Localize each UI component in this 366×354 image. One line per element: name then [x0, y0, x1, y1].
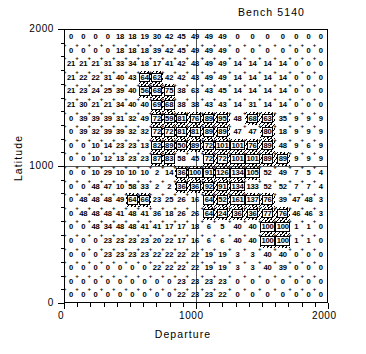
grid-cell-value: 89 [203, 127, 214, 137]
grid-cell: 7 [302, 180, 314, 194]
x-tick [130, 303, 131, 307]
grid-cell: 45 [188, 152, 203, 166]
grid-cell-value: 23 [191, 291, 199, 299]
grid-cell-value: 48 [79, 210, 87, 218]
grid-cell: 48 [90, 220, 102, 234]
grid-cell: 14 [275, 98, 290, 112]
grid-cell-value: 0 [81, 47, 85, 55]
grid-cell-value: 40 [233, 237, 241, 245]
grid-cell-value: 6 [207, 237, 211, 245]
grid-cell: 47 [290, 193, 302, 207]
grid-cell-value: 0 [118, 264, 122, 272]
grid-cell-value: 42 [177, 74, 185, 82]
grid-cell-value: 101 [215, 141, 230, 151]
grid-cell: 22 [163, 248, 175, 262]
grid-cell: 89 [260, 139, 275, 153]
grid-cell: 9 [302, 152, 314, 166]
x-axis-ticks [64, 303, 328, 309]
grid-cell-value: 50 [176, 141, 187, 151]
grid-cell-value: 45 [218, 87, 226, 95]
grid-cell: 16 [188, 234, 203, 248]
grid-cell-value: 38 [177, 101, 185, 109]
grid-cell: 0 [90, 30, 102, 44]
grid-cell: 5 [215, 220, 230, 234]
grid-cell-value: 0 [81, 155, 85, 163]
x-tick [90, 303, 91, 307]
grid-cell-value: 40 [279, 251, 287, 259]
grid-cell-value: 42 [165, 33, 173, 41]
grid-cell: 0 [65, 275, 77, 289]
grid-cell: 40 [126, 98, 138, 112]
grid-cell-value: 49 [205, 47, 213, 55]
grid-cell: 7 [290, 180, 302, 194]
grid-cell-value: 59 [164, 114, 175, 124]
grid-cell-value: 6 [207, 223, 211, 231]
grid-cell: 26 [188, 207, 203, 221]
grid-cell: 10 [90, 139, 102, 153]
grid-cell-value: 10 [128, 169, 136, 177]
grid-cell-value: 0 [266, 291, 270, 299]
grid-cell-value: 17 [177, 223, 185, 231]
grid-cell: 9 [290, 152, 302, 166]
grid-cell-value: 19 [205, 251, 213, 259]
grid-cell: 39 [275, 193, 290, 207]
grid-cell-value: 39 [79, 115, 87, 123]
grid-cell-value: 23 [153, 196, 161, 204]
grid-cell-value: 0 [307, 101, 311, 109]
grid-cell: 17 [151, 57, 163, 71]
grid-cell: 42 [175, 57, 187, 71]
grid-cell: 21 [90, 98, 102, 112]
grid-cell-value: 9 [294, 142, 298, 150]
grid-cell-value: 48 [92, 210, 100, 218]
grid-cell: 14 [260, 98, 275, 112]
grid-cell: 22 [188, 261, 203, 275]
grid-cell-value: 23 [191, 278, 199, 286]
grid-cell: 68 [245, 112, 260, 126]
grid-cell: 0 [275, 30, 290, 44]
grid-cell-value: 17 [153, 60, 161, 68]
grid-cell: 30 [151, 30, 163, 44]
grid-cell: 9 [302, 125, 314, 139]
grid-cell-value: 39 [279, 264, 287, 272]
grid-cell-value: 0 [294, 87, 298, 95]
grid-cell: 39 [151, 44, 163, 58]
grid-cell: 31 [102, 57, 114, 71]
grid-cell: 4 [315, 180, 327, 194]
grid-cell: 39 [90, 112, 102, 126]
grid-cell: 39 [275, 261, 290, 275]
grid-cell: 6 [302, 139, 314, 153]
grid-cell-value: 0 [281, 33, 285, 41]
grid-cell-value: 100 [275, 222, 290, 232]
grid-cell: 0 [65, 139, 77, 153]
grid-cell: 40 [275, 248, 290, 262]
y-tick [61, 221, 65, 222]
grid-cell-value: 46 [305, 210, 313, 218]
grid-cell-value: 9 [294, 115, 298, 123]
grid-cell: 7 [290, 166, 302, 180]
x-tick-label-0: 0 [58, 310, 64, 321]
grid-cell-value: 9 [307, 128, 311, 136]
grid-cell: 133 [245, 180, 260, 194]
grid-cell-value: 1 [307, 237, 311, 245]
grid-cell-value: 39 [153, 47, 161, 55]
x-tick [117, 303, 118, 307]
grid-cell: 0 [65, 248, 77, 262]
grid-cell: 80 [260, 125, 275, 139]
grid-cell: 48 [102, 193, 114, 207]
grid-cell-value: 43 [205, 101, 213, 109]
grid-cell: 0 [315, 275, 327, 289]
grid-cell: 0 [245, 275, 260, 289]
grid-cell: 24 [90, 84, 102, 98]
chart-title: Bench 5140 [238, 6, 305, 18]
grid-cell: 101 [245, 152, 260, 166]
grid-cell: 0 [102, 30, 114, 44]
grid-cell: 0 [260, 30, 275, 44]
grid-cell-value: 91 [203, 168, 214, 178]
grid-cell-value: 52 [217, 195, 228, 205]
grid-cell: 9 [315, 152, 327, 166]
grid-cell: 92 [203, 180, 215, 194]
grid-cell: 18 [114, 44, 126, 58]
grid-cell: 134 [230, 166, 245, 180]
grid-cell-value: 0 [319, 264, 323, 272]
y-tick [58, 166, 64, 167]
